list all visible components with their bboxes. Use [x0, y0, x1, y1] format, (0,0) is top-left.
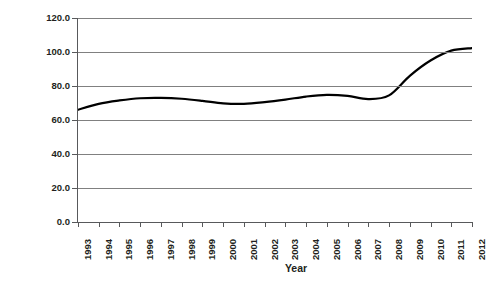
x-tick-mark [223, 223, 224, 227]
x-tick-label: 1993 [82, 239, 93, 260]
x-tick-label: 2003 [289, 239, 300, 260]
chart-container: World Government Debt (Percent of GDP) Y… [0, 0, 502, 291]
x-tick-label: 1997 [165, 239, 176, 260]
x-tick-mark [140, 223, 141, 227]
x-tick-mark [431, 223, 432, 227]
x-tick-mark [265, 223, 266, 227]
x-tick-mark [99, 223, 100, 227]
y-axis-title: World Government Debt (Percent of GDP) [22, 0, 46, 291]
gridline [78, 120, 472, 121]
x-tick-label: 1999 [206, 239, 217, 260]
x-tick-mark [472, 223, 473, 227]
x-axis-title-text: Year [285, 262, 307, 274]
y-tick-label: 0.0 [24, 217, 70, 227]
x-tick-label: 2008 [393, 239, 404, 260]
x-axis-title: Year [0, 262, 502, 274]
x-tick-mark [182, 223, 183, 227]
y-tick-label: 100.0 [24, 47, 70, 57]
y-tick-label: 80.0 [24, 81, 70, 91]
x-tick-label: 2007 [372, 239, 383, 260]
y-tick-mark [72, 188, 78, 189]
y-tick-mark [72, 18, 78, 19]
x-tick-label: 2001 [248, 239, 259, 260]
x-tick-mark [348, 223, 349, 227]
x-tick-label: 2004 [310, 239, 321, 260]
x-tick-mark [306, 223, 307, 227]
y-tick-mark [72, 52, 78, 53]
x-tick-label: 1995 [123, 239, 134, 260]
x-tick-mark [389, 223, 390, 227]
x-tick-mark [161, 223, 162, 227]
x-tick-label: 2010 [435, 239, 446, 260]
x-tick-mark [119, 223, 120, 227]
x-tick-label: 1998 [186, 239, 197, 260]
x-tick-label: 1994 [103, 239, 114, 260]
gridline [78, 188, 472, 189]
y-tick-mark [72, 154, 78, 155]
y-tick-mark [72, 86, 78, 87]
y-tick-label: 120.0 [24, 13, 70, 23]
x-tick-mark [327, 223, 328, 227]
x-tick-label: 2012 [476, 239, 487, 260]
x-tick-label: 1996 [144, 239, 155, 260]
x-tick-mark [451, 223, 452, 227]
x-tick-label: 2005 [331, 239, 342, 260]
x-tick-mark [410, 223, 411, 227]
x-tick-label: 2002 [269, 239, 280, 260]
x-tick-label: 2000 [227, 239, 238, 260]
x-tick-label: 2009 [414, 239, 425, 260]
x-tick-mark [78, 223, 79, 227]
plot-area [78, 18, 472, 222]
y-tick-mark [72, 120, 78, 121]
x-axis-line [77, 222, 473, 223]
y-tick-label: 40.0 [24, 149, 70, 159]
gridline [78, 86, 472, 87]
y-tick-label: 60.0 [24, 115, 70, 125]
y-tick-label: 20.0 [24, 183, 70, 193]
x-tick-mark [368, 223, 369, 227]
gridline [78, 18, 472, 19]
x-tick-mark [244, 223, 245, 227]
gridline [78, 154, 472, 155]
x-tick-label: 2011 [455, 239, 466, 260]
x-tick-mark [285, 223, 286, 227]
x-tick-mark [202, 223, 203, 227]
gridline [78, 52, 472, 53]
x-tick-label: 2006 [352, 239, 363, 260]
